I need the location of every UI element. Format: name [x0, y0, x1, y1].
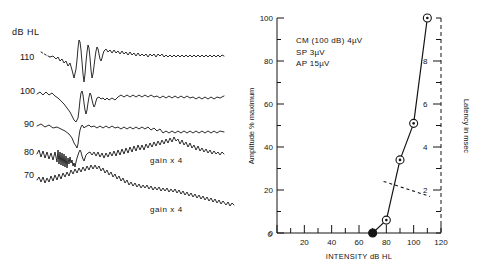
- intensity-label-90: 90: [24, 119, 34, 129]
- waveform-trace-110-main: [50, 40, 224, 82]
- figure-root: dB HL 110 100 90 80 70 gain x 4 gain: [0, 0, 481, 274]
- y-tick-label-100: 100: [260, 14, 274, 23]
- y2-axis-title: Latency in msec: [462, 99, 471, 153]
- db-hl-axis-title: dB HL: [12, 27, 40, 37]
- y-tick-label-20: 20: [264, 186, 273, 195]
- x-tick-label-0: 0: [268, 230, 273, 239]
- intensity-label-110: 110: [20, 52, 34, 62]
- waveform-trace-80: [37, 137, 224, 168]
- x-tick-label-100: 100: [407, 238, 421, 247]
- amplitude-latency-chart: 020406080100 204060801001200 2468 Amplit…: [240, 0, 481, 274]
- x-tick-label-80: 80: [382, 238, 391, 247]
- y-tick-label-40: 40: [264, 143, 273, 152]
- data-point-dot-80dB: [385, 219, 388, 222]
- data-point-dot-90dB: [399, 159, 402, 162]
- data-point-70dB: [369, 229, 377, 237]
- gain-annotation-80: gain x 4: [150, 156, 183, 165]
- x-tick-label-60: 60: [355, 238, 364, 247]
- x-tick-label-40: 40: [327, 238, 336, 247]
- x-tick-label-120: 120: [434, 238, 448, 247]
- y2-axis-tick-labels: 2468: [423, 57, 428, 195]
- y2-tick-label-2: 2: [423, 186, 428, 195]
- y2-tick-label-4: 4: [423, 143, 428, 152]
- waveform-trace-90: [37, 124, 224, 148]
- waveform-trace-100: [37, 91, 224, 122]
- y-axis-tick-labels: 020406080100: [260, 14, 274, 238]
- data-point-dot-100dB: [412, 122, 415, 125]
- y-axis-title: Amplitude % maximum: [247, 88, 256, 165]
- intensity-label-70: 70: [24, 170, 34, 180]
- intensity-label-80: 80: [24, 147, 34, 157]
- x-tick-label-20: 20: [300, 238, 309, 247]
- chart-svg: 020406080100 204060801001200 2468 Amplit…: [240, 0, 481, 274]
- y-tick-label-60: 60: [264, 100, 273, 109]
- waveform-trace-110: [41, 52, 50, 57]
- waveform-svg: dB HL 110 100 90 80 70 gain x 4 gain: [0, 0, 240, 274]
- annotation-ap: AP 15µV: [296, 59, 330, 68]
- annotation-cm: CM (100 dB) 4µV: [296, 36, 363, 45]
- x-axis-ticks: [277, 225, 441, 233]
- waveform-trace-70: [37, 165, 234, 206]
- x-axis-title: INTENSITY dB HL: [326, 252, 392, 261]
- y2-tick-label-8: 8: [423, 57, 428, 66]
- y2-axis-ticks: [433, 18, 441, 233]
- waveform-panel: dB HL 110 100 90 80 70 gain x 4 gain: [0, 0, 240, 274]
- intensity-label-100: 100: [20, 86, 35, 96]
- amplitude-series-markers: [369, 14, 432, 237]
- y-axis-ticks: [277, 18, 284, 233]
- amplitude-series-line: [373, 18, 428, 233]
- annotation-sp: SP 3µV: [296, 48, 325, 57]
- waveform-traces: [37, 40, 234, 206]
- data-point-dot-110dB: [426, 17, 429, 20]
- y2-tick-label-6: 6: [423, 100, 428, 109]
- y-tick-label-80: 80: [264, 57, 273, 66]
- gain-annotation-70: gain x 4: [150, 205, 183, 214]
